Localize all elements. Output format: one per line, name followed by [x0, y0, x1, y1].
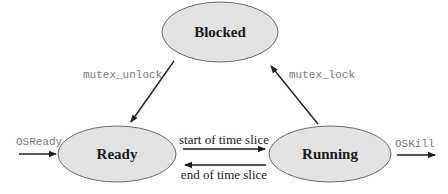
transition-start-time-slice-label: start of time slice [179, 132, 269, 147]
state-running-label: Running [302, 146, 358, 162]
transition-oskill-label: OSKill [395, 138, 435, 150]
transition-end-time-slice: end of time slice [181, 165, 268, 182]
state-ready-label: Ready [97, 146, 138, 162]
transition-start-time-slice: start of time slice [179, 132, 269, 149]
state-running: Running [269, 126, 391, 182]
transition-osready-label: OSReady [16, 136, 63, 148]
transition-end-time-slice-label: end of time slice [181, 167, 268, 182]
state-blocked-label: Blocked [194, 24, 246, 40]
transition-mutex-lock-label: mutex_lock [289, 69, 355, 81]
state-blocked: Blocked [162, 2, 278, 62]
state-ready: Ready [58, 126, 176, 182]
state-diagram: Blocked Ready Running mutex_unlock mutex… [0, 0, 448, 194]
transition-mutex-lock: mutex_lock [271, 66, 355, 124]
transition-oskill: OSKill [395, 138, 435, 155]
transition-mutex-unlock: mutex_unlock [83, 61, 174, 122]
transition-mutex-unlock-label: mutex_unlock [83, 69, 163, 81]
transition-osready: OSReady [16, 136, 63, 154]
